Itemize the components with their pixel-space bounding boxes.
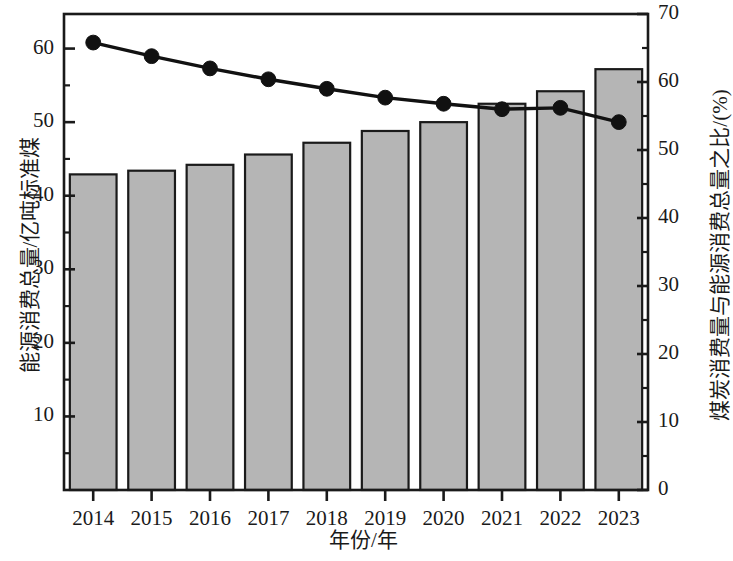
bar-2019 [362, 131, 409, 490]
line-marker-2019 [378, 90, 393, 105]
line-marker-2015 [144, 49, 159, 64]
y-tick-label-left-20: 20 [8, 329, 54, 354]
y-tick-label-left-10: 10 [8, 402, 54, 427]
y-tick-label-right-60: 60 [658, 68, 704, 93]
y-tick-label-right-30: 30 [658, 272, 704, 297]
bar-2017 [245, 155, 292, 490]
x-tick-label-2016: 2016 [178, 506, 242, 531]
x-tick-label-2019: 2019 [353, 506, 417, 531]
y-tick-label-right-40: 40 [658, 204, 704, 229]
y-tick-label-left-60: 60 [8, 35, 54, 60]
x-tick-label-2021: 2021 [470, 506, 534, 531]
x-tick-label-2022: 2022 [528, 506, 592, 531]
bar-series [70, 69, 642, 490]
x-tick-label-2014: 2014 [61, 506, 125, 531]
bar-2015 [128, 171, 175, 490]
bar-2014 [70, 174, 117, 490]
line-marker-2018 [319, 81, 334, 96]
y-tick-label-right-70: 70 [658, 0, 704, 25]
bar-2016 [187, 165, 234, 490]
x-tick-label-2023: 2023 [587, 506, 651, 531]
y-tick-label-right-50: 50 [658, 136, 704, 161]
line-marker-2023 [611, 115, 626, 130]
line-marker-2020 [436, 96, 451, 111]
x-tick-label-2020: 2020 [412, 506, 476, 531]
y-tick-label-left-40: 40 [8, 182, 54, 207]
line-marker-2022 [553, 100, 568, 115]
x-tick-label-2015: 2015 [120, 506, 184, 531]
line-marker-2021 [495, 102, 510, 117]
line-marker-2014 [86, 35, 101, 50]
bar-2023 [595, 69, 642, 490]
y-tick-label-right-20: 20 [658, 340, 704, 365]
bar-2020 [420, 122, 467, 490]
y-tick-label-left-50: 50 [8, 108, 54, 133]
line-marker-2017 [261, 72, 276, 87]
y-tick-label-right-10: 10 [658, 408, 704, 433]
bar-2022 [537, 91, 584, 490]
y-tick-label-right-0: 0 [658, 476, 704, 501]
line-marker-2016 [203, 61, 218, 76]
y-tick-label-left-30: 30 [8, 255, 54, 280]
bar-2018 [303, 143, 350, 490]
x-tick-label-2018: 2018 [295, 506, 359, 531]
bar-2021 [479, 104, 526, 490]
x-tick-label-2017: 2017 [236, 506, 300, 531]
